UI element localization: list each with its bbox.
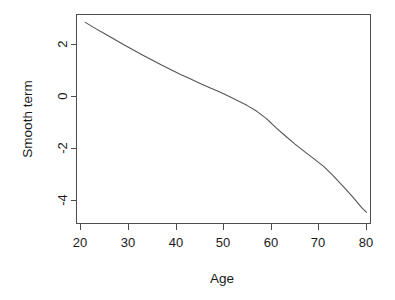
x-tick-label-60: 60 bbox=[264, 235, 278, 250]
y-tick-label-0: 0 bbox=[55, 92, 70, 99]
y-tick-label-2: 2 bbox=[55, 40, 70, 47]
y-tick-label-minus2: -2 bbox=[55, 142, 70, 154]
y-axis-title: Smooth term bbox=[20, 80, 35, 157]
x-tick-label-40: 40 bbox=[169, 235, 183, 250]
x-axis-title: Age bbox=[210, 271, 234, 286]
y-tick-label-minus4: -4 bbox=[55, 194, 70, 206]
x-tick-label-20: 20 bbox=[73, 235, 87, 250]
plot-canvas: 20 30 40 50 60 70 80 2 0 -2 -4 Age Smoot… bbox=[0, 0, 395, 300]
chart-figure: 20 30 40 50 60 70 80 2 0 -2 -4 Age Smoot… bbox=[0, 0, 395, 300]
x-tick-label-30: 30 bbox=[121, 235, 135, 250]
x-tick-label-80: 80 bbox=[359, 235, 373, 250]
x-tick-label-70: 70 bbox=[311, 235, 325, 250]
x-tick-label-50: 50 bbox=[216, 235, 230, 250]
